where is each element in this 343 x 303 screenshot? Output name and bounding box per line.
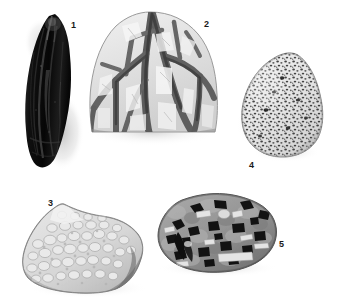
specimen-image-3 <box>18 200 148 296</box>
figure-number-3: 3 <box>48 199 53 208</box>
specimen-image-1 <box>22 12 84 172</box>
specimen-image-5 <box>152 192 282 276</box>
specimen-image-2 <box>86 8 220 148</box>
figure-number-2: 2 <box>204 20 209 29</box>
figure-number-5: 5 <box>279 240 284 249</box>
figure-number-4: 4 <box>249 161 254 170</box>
figure-number-1: 1 <box>71 21 76 30</box>
specimen-image-4 <box>236 52 328 164</box>
specimen-plate: 1 <box>0 0 343 303</box>
